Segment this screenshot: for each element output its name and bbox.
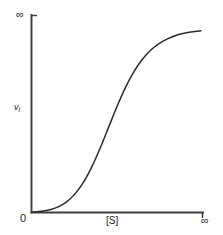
sigmoidal-kinetics-figure: ∞ vi 0 [S] ∞ <box>0 0 223 235</box>
origin-label: 0 <box>20 213 26 224</box>
plot-canvas <box>0 0 223 235</box>
x-axis-title: [S] <box>106 216 118 226</box>
x-axis-max-label: ∞ <box>201 215 209 226</box>
y-axis-title-subscript: i <box>19 106 21 113</box>
y-axis-title: vi <box>14 103 20 113</box>
sigmoid-curve <box>33 31 201 212</box>
y-axis-max-label: ∞ <box>16 9 24 20</box>
